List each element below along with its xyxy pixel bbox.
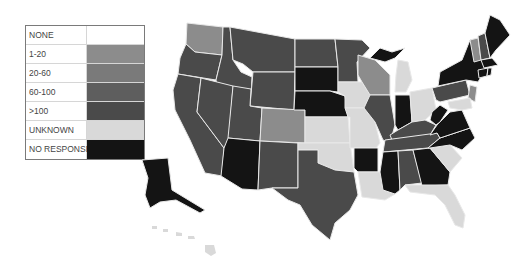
state-wyoming <box>250 72 295 110</box>
state-hawaii <box>152 226 216 256</box>
state-new-mexico <box>258 141 298 190</box>
state-south-dakota <box>295 67 338 92</box>
state-alaska <box>142 158 205 213</box>
state-connecticut <box>478 68 488 78</box>
state-arkansas <box>354 148 378 172</box>
state-florida <box>405 185 465 228</box>
state-colorado <box>260 108 305 143</box>
state-rhode-island <box>487 68 492 76</box>
state-montana <box>230 27 295 72</box>
us-choropleth-map <box>0 0 524 268</box>
state-north-dakota <box>295 39 338 67</box>
state-arizona <box>221 138 260 190</box>
state-kansas <box>305 117 350 143</box>
state-massachusetts <box>481 58 498 68</box>
state-mississippi <box>380 151 400 194</box>
state-maine <box>485 15 510 58</box>
state-michigan <box>395 60 412 92</box>
